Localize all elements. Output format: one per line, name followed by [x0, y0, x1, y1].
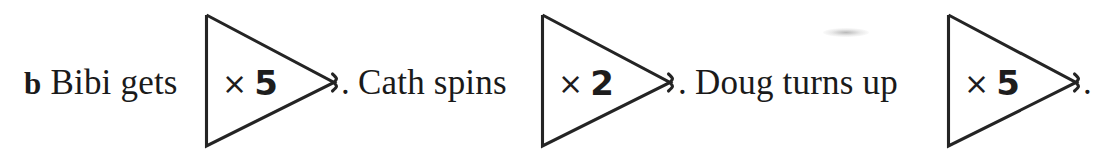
prompt-label-bibi: Bibi gets	[50, 63, 177, 102]
multiplier-value-bibi: 5	[254, 63, 278, 103]
sentence-period-bibi: .	[341, 65, 350, 100]
scan-smudge-artifact	[823, 28, 869, 37]
prompt-text-bibi: bBibi gets	[24, 65, 178, 100]
triangle-apex-nib-bibi	[333, 74, 337, 91]
prompt-text-cath: Cath spins	[358, 65, 507, 100]
prompt-label-cath: Cath spins	[358, 63, 507, 102]
machine-value-bibi: ×5	[222, 66, 278, 100]
multiply-sign-cath: ×	[558, 66, 583, 101]
worksheet-page: bBibi gets ×5 . Cath spins ×2 . Doug tur…	[0, 0, 1099, 157]
machine-value-doug: ×5	[964, 66, 1020, 100]
multiply-sign-bibi: ×	[222, 66, 247, 101]
multiplier-value-cath: 2	[590, 63, 614, 103]
sentence-period-cath: .	[678, 65, 687, 100]
multiply-sign-doug: ×	[964, 66, 989, 101]
sentence-period-doug: .	[1083, 65, 1092, 100]
part-label-b: b	[24, 66, 41, 101]
multiplier-value-doug: 5	[996, 63, 1020, 103]
prompt-label-doug: Doug turns up	[695, 63, 898, 102]
triangle-apex-nib-cath	[669, 74, 673, 91]
machine-value-cath: ×2	[558, 66, 614, 100]
triangle-apex-nib-doug	[1075, 74, 1079, 91]
prompt-text-doug: Doug turns up	[695, 65, 898, 100]
